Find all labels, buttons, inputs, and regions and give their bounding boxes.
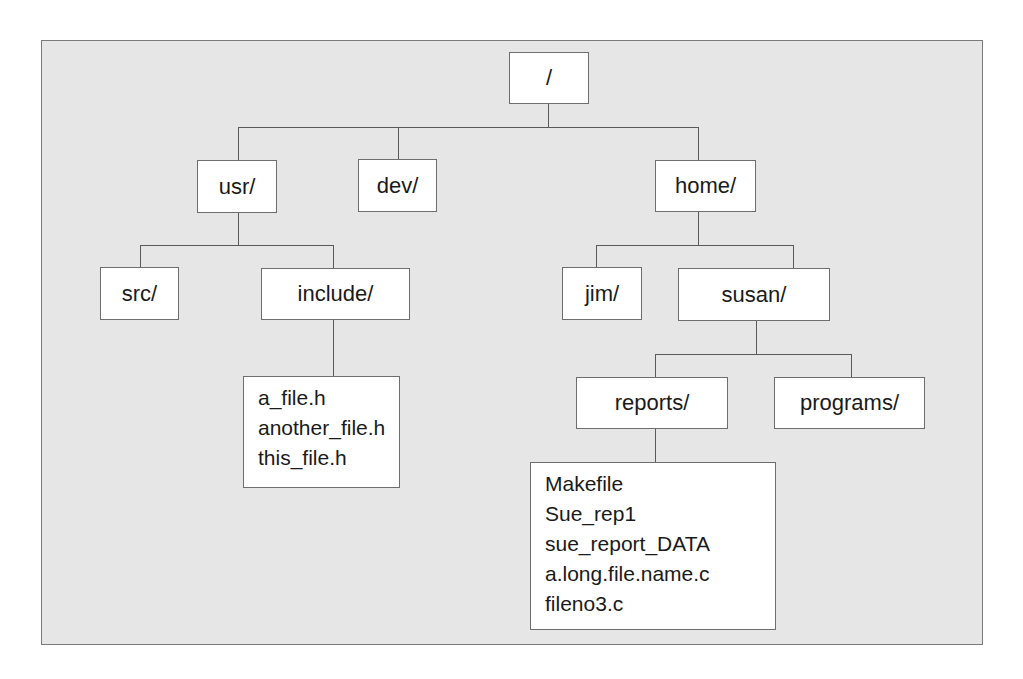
file-item: this_file.h [258, 443, 399, 473]
file-item: another_file.h [258, 413, 399, 443]
connector-usr-up [238, 127, 239, 160]
connector-programs-up [851, 354, 852, 377]
diagram-frame [41, 40, 983, 645]
connector-reports-stem [655, 428, 656, 462]
node-label: include/ [298, 281, 374, 307]
connector-dev-up [398, 127, 399, 159]
node-root: / [509, 52, 589, 104]
node-label: src/ [122, 281, 157, 307]
node-label: susan/ [722, 282, 787, 308]
connector-usr-bar [140, 245, 334, 246]
connector-home-stem [698, 211, 699, 245]
node-dev: dev/ [358, 159, 437, 212]
connector-home-up [698, 127, 699, 160]
file-item: Makefile [545, 469, 775, 499]
node-label: home/ [675, 173, 736, 199]
connector-usr-stem [238, 212, 239, 245]
file-item: a.long.file.name.c [545, 559, 775, 589]
connector-susan-up [793, 245, 794, 268]
file-item: Sue_rep1 [545, 499, 775, 529]
connector-include-up [333, 245, 334, 268]
connector-jim-up [596, 245, 597, 267]
node-include: include/ [261, 268, 410, 320]
connector-root-stem [548, 103, 549, 127]
file-item: fileno3.c [545, 589, 775, 619]
node-reports: reports/ [576, 377, 728, 429]
node-label: reports/ [615, 390, 690, 416]
reports-file-list: Makefile Sue_rep1 sue_report_DATA a.long… [530, 462, 776, 630]
connector-home-bar [596, 245, 794, 246]
node-label: usr/ [219, 174, 256, 200]
connector-susan-bar [655, 354, 852, 355]
node-src: src/ [100, 267, 179, 320]
node-label: jim/ [585, 281, 619, 307]
connector-level1-bar [238, 127, 699, 128]
node-label: programs/ [800, 390, 899, 416]
node-label: dev/ [377, 173, 419, 199]
node-jim: jim/ [562, 267, 642, 320]
file-item: sue_report_DATA [545, 529, 775, 559]
node-programs: programs/ [774, 377, 925, 429]
include-file-list: a_file.h another_file.h this_file.h [243, 376, 400, 488]
node-home: home/ [655, 160, 756, 212]
connector-reports-up [655, 354, 656, 377]
node-susan: susan/ [678, 268, 830, 321]
connector-include-stem [333, 319, 334, 376]
node-usr: usr/ [197, 160, 277, 213]
file-item: a_file.h [258, 383, 399, 413]
connector-src-up [140, 245, 141, 267]
node-label: / [546, 65, 552, 91]
connector-susan-stem [756, 320, 757, 354]
